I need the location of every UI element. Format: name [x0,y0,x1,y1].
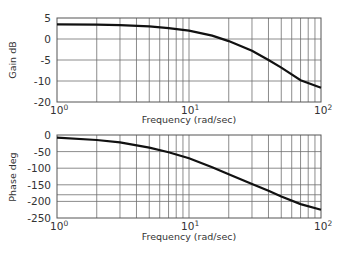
svg-text:102: 102 [314,219,332,232]
phase-ylabel: Phase deg [7,152,18,201]
bode-plot: 5 0 -5 -10 -20 Gain dB 100 101 102 Frequ… [0,0,342,254]
xtick-exp-2: 2 [327,103,332,112]
svg-text:100: 100 [50,219,68,232]
phase-ytick-minus200: -200 [27,195,51,207]
svg-text:102: 102 [314,103,332,116]
phase-xlabel: Frequency (rad/sec) [142,231,237,242]
gain-xlabel: Frequency (rad/sec) [142,114,237,125]
gain-ytick-5: 5 [44,12,51,24]
phase-ytick-minus250: -250 [27,212,51,224]
svg-text:100: 100 [50,103,68,116]
phase-grid [57,135,321,218]
xtick-base: 10 [50,104,63,116]
phase-ytick-minus50: -50 [34,146,51,158]
gain-ytick-minus10: -10 [34,75,51,87]
gain-ytick-minus20: -20 [34,96,51,108]
phase-ytick-0: 0 [44,129,51,141]
gain-ylabel: Gain dB [7,41,18,78]
gain-ytick-minus5: -5 [41,54,51,66]
phase-ytick-minus100: -100 [27,162,51,174]
gain-ytick-0: 0 [44,33,51,45]
xtick-exp-1: 1 [194,103,199,112]
xtick-exp-0: 0 [63,103,68,112]
phase-ytick-minus150: -150 [27,179,51,191]
